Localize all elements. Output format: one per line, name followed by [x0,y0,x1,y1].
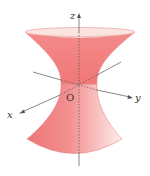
x-axis-label: x [7,109,13,120]
y-axis-front [97,90,130,97]
x-arrow-icon [19,110,25,114]
hyperboloid-diagram: z y x O [0,0,150,176]
origin-label: O [66,92,74,103]
y-axis-back [33,72,61,80]
lower-sheet [27,84,122,154]
y-axis-label: y [134,92,141,103]
z-axis-label: z [69,10,76,21]
z-arrow-icon [77,13,81,18]
top-rim [25,28,135,37]
y-arrow-icon [128,95,134,99]
upper-sheet [25,32,135,84]
